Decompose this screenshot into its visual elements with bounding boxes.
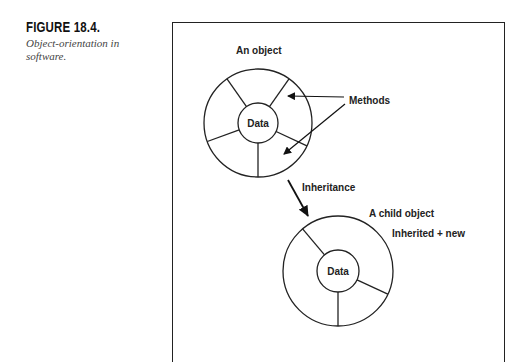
parent-object: An object Data (204, 45, 312, 177)
methods-arrow-top (288, 96, 344, 97)
child-data-label: Data (327, 266, 349, 277)
method-divider (227, 79, 247, 107)
inheritance-label: Inheritance (302, 182, 356, 193)
methods-arrow-bottom (284, 104, 345, 154)
method-divider (357, 280, 388, 294)
methods-label: Methods (349, 95, 391, 106)
inheritance-relation: Inheritance (288, 180, 356, 216)
parent-data-label: Data (247, 118, 269, 129)
method-divider (207, 130, 239, 142)
child-object: A child object Inherited + new Data (283, 208, 465, 326)
method-divider (303, 229, 325, 255)
methods-callout: Methods (284, 95, 391, 154)
method-divider (270, 79, 290, 107)
parent-object-title: An object (236, 45, 282, 56)
child-object-subtitle: Inherited + new (392, 228, 465, 239)
child-object-title: A child object (369, 208, 435, 219)
